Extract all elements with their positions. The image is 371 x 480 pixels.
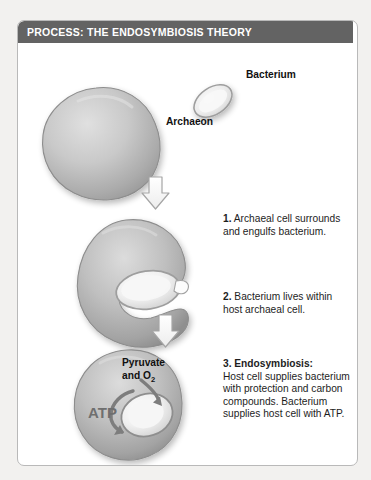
archaeon-label: Archaeon: [166, 116, 213, 127]
step-1-callout: 1. Archaeal cell surrounds and engulfs b…: [223, 213, 345, 238]
figure-frame: PROCESS: THE ENDOSYMBIOSIS THEORY: [17, 20, 358, 466]
step-2-callout: 2. Bacterium lives within host archaeal …: [223, 291, 349, 316]
pyruvate-subscript: 2: [151, 375, 155, 384]
atp-label: ATP: [88, 404, 117, 421]
figure-title-bar: PROCESS: THE ENDOSYMBIOSIS THEORY: [18, 21, 353, 43]
step-3-heading: 3. Endosymbiosis:: [223, 358, 313, 369]
pyruvate-label: Pyruvate and O2: [122, 357, 165, 386]
bacterium-label: Bacterium: [246, 69, 296, 80]
pyruvate-line-1: Pyruvate: [122, 357, 165, 368]
step-1-text: Archaeal cell surrounds and engulfs bact…: [223, 213, 340, 237]
step-3-text: Host cell supplies bacterium with protec…: [223, 371, 350, 420]
step-1-number: 1.: [223, 213, 232, 224]
step-2-text: Bacterium lives within host archaeal cel…: [223, 291, 332, 315]
step-2-number: 2.: [223, 291, 232, 302]
step-3-callout: 3. Endosymbiosis: Host cell supplies bac…: [223, 358, 353, 421]
pyruvate-line-2: and O: [122, 370, 151, 381]
free-archaeon-cell: [43, 88, 161, 200]
figure-title: PROCESS: THE ENDOSYMBIOSIS THEORY: [27, 26, 252, 38]
